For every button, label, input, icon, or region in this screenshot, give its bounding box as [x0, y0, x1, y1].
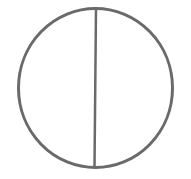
vertical-divider-line [95, 9, 97, 168]
divided-circle-diagram [0, 0, 191, 179]
